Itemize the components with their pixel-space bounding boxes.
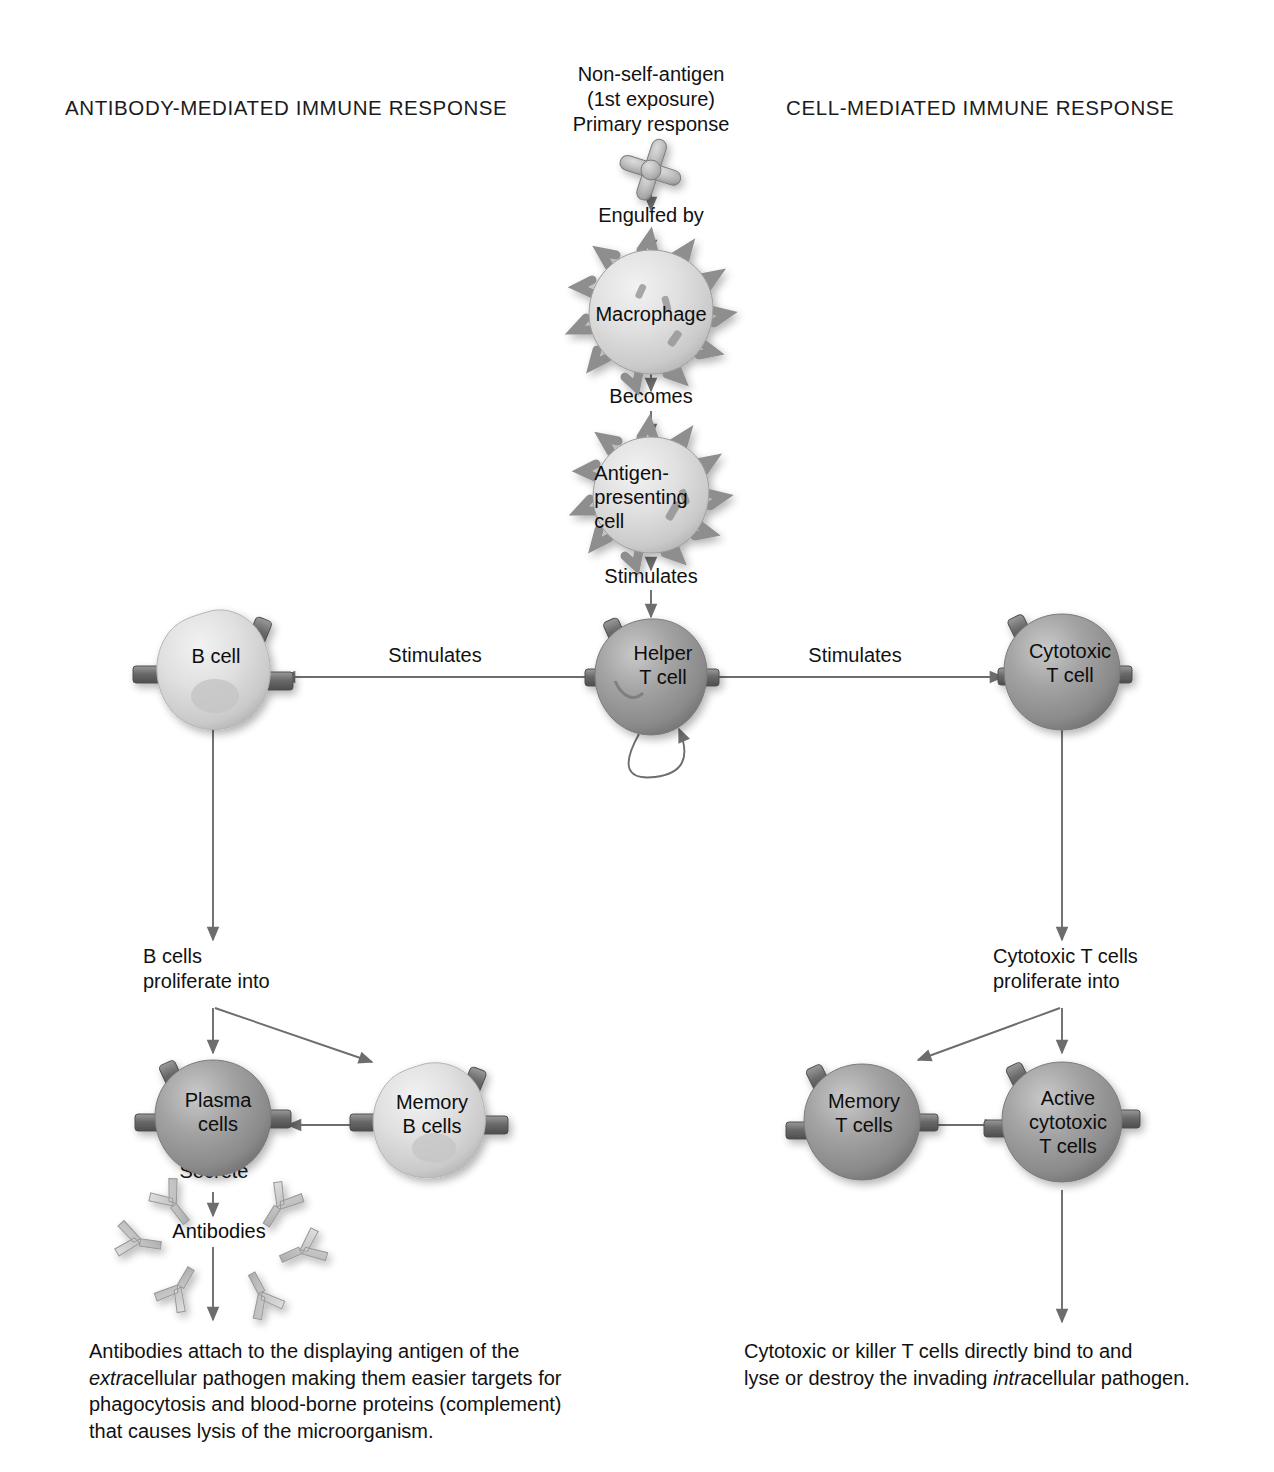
plasma-cells (135, 1059, 291, 1176)
antibody-cluster (114, 1175, 330, 1323)
arrow-proliferate-to-memory-t (918, 1008, 1060, 1060)
arrow-helper-t-self-loop (629, 729, 685, 777)
antigen-presenting-cell (579, 424, 723, 566)
immune-response-diagram: ANTIBODY-MEDIATED IMMUNE RESPONSE CELL-M… (0, 0, 1274, 1472)
helper-t-cell (585, 617, 719, 735)
memory-b-cells (350, 1063, 508, 1178)
active-cytotoxic-t-cells (984, 1061, 1140, 1182)
arrow-proliferate-to-memory-b (215, 1008, 372, 1062)
non-self-antigen-icon (618, 137, 683, 202)
cytotoxic-t-cell (998, 613, 1132, 730)
macrophage-cell (575, 237, 727, 387)
memory-t-cells (786, 1063, 938, 1180)
connector-layer (0, 0, 1274, 1472)
b-cell (133, 610, 293, 730)
